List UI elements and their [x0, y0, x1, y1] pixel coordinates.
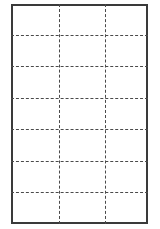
grid-line-horizontal-h1 — [11, 35, 148, 36]
grid-line-vertical-v1 — [59, 4, 60, 224]
grid-line-vertical-v2 — [105, 4, 106, 224]
grid-line-horizontal-h5 — [11, 161, 148, 162]
diagram-canvas — [0, 0, 160, 229]
grid-line-horizontal-h3 — [11, 98, 148, 99]
grid-line-horizontal-h4 — [11, 129, 148, 130]
grid-line-horizontal-h2 — [11, 66, 148, 67]
grid-line-horizontal-h6 — [11, 192, 148, 193]
dashed-grid-layer — [13, 6, 146, 222]
